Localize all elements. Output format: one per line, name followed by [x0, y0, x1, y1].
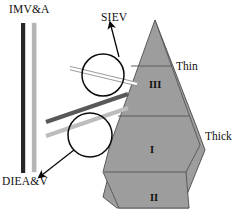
flap-silhouette	[103, 20, 200, 208]
imv-vessel-bars	[21, 23, 36, 173]
imv-vein-light-bar	[32, 23, 36, 172]
label-segment-i: I	[150, 145, 154, 156]
siev-leader-arrow	[111, 26, 119, 57]
siev-vessel-edge-bottom	[70, 70, 137, 86]
diea-leader-arrow	[42, 150, 74, 175]
imv-artery-dark-bar	[21, 23, 25, 173]
label-segment-iii: III	[149, 80, 161, 91]
label-imv-and-artery: IMV&A	[9, 4, 50, 16]
label-siev: SIEV	[101, 12, 127, 24]
siev-vessel-edge-top	[70, 66, 137, 82]
figure-canvas: IMV&A DIEA&V SIEV Thin Thick III I II	[0, 0, 240, 215]
label-thick: Thick	[205, 131, 232, 143]
label-thin: Thin	[176, 61, 198, 73]
label-segment-ii: II	[150, 193, 158, 204]
abdominal-flap-shape	[103, 20, 205, 208]
label-diea-and-vein: DIEA&V	[2, 176, 48, 188]
diea-dark-vessel	[46, 94, 128, 122]
siev-vessel	[70, 66, 137, 85]
siev-vessel-line	[70, 68, 137, 84]
